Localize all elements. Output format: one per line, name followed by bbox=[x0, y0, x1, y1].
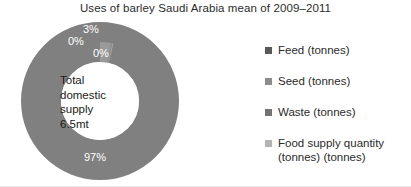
legend-swatch-icon bbox=[265, 47, 272, 54]
legend-swatch-icon bbox=[265, 78, 272, 85]
legend-item-waste[interactable]: Waste (tonnes) bbox=[265, 106, 411, 137]
legend-item-food-supply-quantity[interactable]: Food supply quantity (tonnes) (tonnes) bbox=[265, 137, 411, 168]
center-line-2: domestic bbox=[60, 88, 140, 103]
legend-label-food-supply-quantity: Food supply quantity (tonnes) (tonnes) bbox=[278, 137, 384, 164]
legend-label-line-2: (tonnes) (tonnes) bbox=[278, 151, 384, 165]
legend: Feed (tonnes) Seed (tonnes) Waste (tonne… bbox=[265, 44, 411, 168]
legend-item-seed[interactable]: Seed (tonnes) bbox=[265, 75, 411, 106]
slice-label-feed: 3% bbox=[83, 23, 99, 35]
center-line-1: Total bbox=[60, 73, 140, 88]
slice-label-seed: 0% bbox=[68, 35, 84, 47]
legend-label-feed: Feed (tonnes) bbox=[278, 44, 350, 58]
center-annotation: Total domestic supply 6.5mt bbox=[60, 66, 140, 138]
center-line-3: supply bbox=[60, 102, 140, 117]
legend-swatch-icon bbox=[265, 140, 272, 147]
legend-swatch-icon bbox=[265, 109, 272, 116]
legend-label-seed: Seed (tonnes) bbox=[278, 75, 350, 89]
legend-item-feed[interactable]: Feed (tonnes) bbox=[265, 44, 411, 75]
legend-label-line-1: Food supply quantity bbox=[278, 137, 384, 149]
slice-label-food-supply-quantity: 97% bbox=[84, 151, 106, 163]
chart-container: Uses of barley Saudi Arabia mean of 2009… bbox=[0, 0, 411, 187]
chart-title: Uses of barley Saudi Arabia mean of 2009… bbox=[0, 2, 411, 14]
doughnut-chart: 3% 0% 0% 97% Total domestic supply 6.5mt bbox=[21, 22, 179, 180]
slice-label-waste: 0% bbox=[93, 47, 109, 59]
center-line-4: 6.5mt bbox=[60, 117, 140, 132]
legend-label-waste: Waste (tonnes) bbox=[278, 106, 356, 120]
